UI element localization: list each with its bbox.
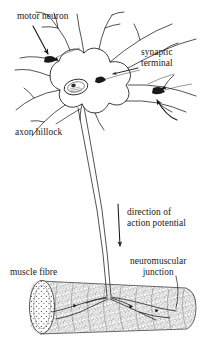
label-muscle-fibre: muscle fibre [10,267,57,278]
label-neuromuscular-junction: neuromuscular junction [130,256,186,278]
label-motor-neuron: motor neuron [17,11,68,22]
label-direction-line1: direction of [127,207,186,218]
label-synaptic-terminal-line2: terminal [141,58,173,69]
figure-canvas: motor neuron synaptic terminal axon hill… [0,0,212,344]
label-direction-line2: action potential [127,218,186,229]
label-neuromuscular-line1: neuromuscular [130,256,186,267]
label-synaptic-terminal: synaptic terminal [141,47,173,69]
muscle-fibre-graphic [30,281,197,335]
label-axon-hillock: axon hillock [15,127,62,138]
label-direction-of-action-potential: direction of action potential [127,207,186,229]
label-synaptic-terminal-line1: synaptic [141,47,173,58]
motor-neuron-diagram [0,0,212,344]
cell-body-graphic [50,48,131,113]
label-neuromuscular-line2: junction [130,267,186,278]
